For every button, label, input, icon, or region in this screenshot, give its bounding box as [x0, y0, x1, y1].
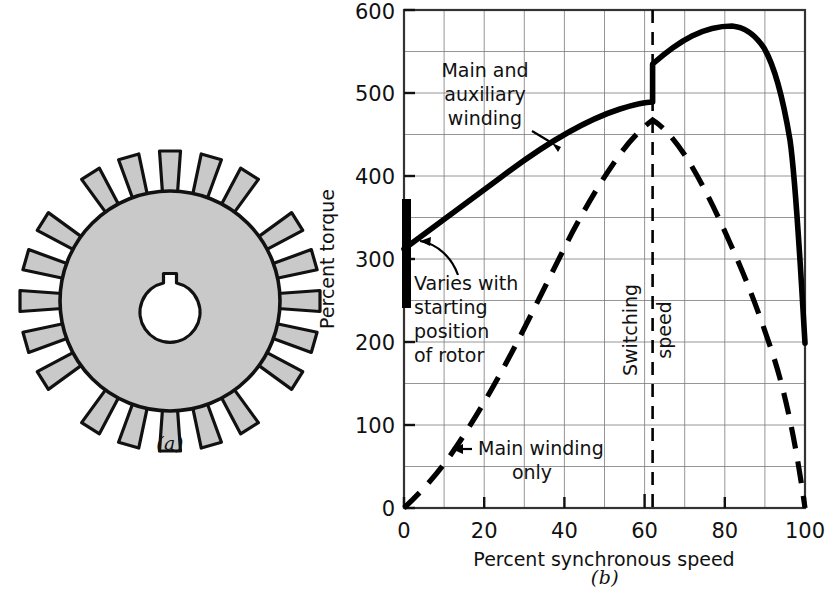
annotation-line: Main winding — [478, 437, 604, 459]
y-axis-title: Percent torque — [316, 189, 338, 329]
y-tick-label: 200 — [355, 331, 395, 355]
annotation-line: winding — [448, 107, 522, 129]
annotation-line: position — [414, 320, 489, 342]
torque-speed-curves: 0 100 200 300 400 500 600 0 20 40 60 80 … — [300, 0, 833, 605]
main-and-auxiliary-winding-leader — [532, 131, 552, 143]
x-tick-label: 20 — [471, 519, 498, 543]
annotation-line: only — [512, 461, 552, 483]
main-and-auxiliary-winding-label: Main and auxiliary winding — [441, 59, 528, 129]
caption-panel-a: (a) — [0, 432, 340, 454]
x-tick-label: 100 — [785, 519, 825, 543]
annotation-line: Varies with — [414, 272, 518, 294]
x-tick-label: 40 — [551, 519, 578, 543]
panel-b-torque-speed-chart: 0 100 200 300 400 500 600 0 20 40 60 80 … — [300, 0, 833, 605]
y-tick-label: 0 — [382, 497, 395, 521]
y-tick-label: 300 — [355, 248, 395, 272]
switching-speed-label-left: Switching — [619, 284, 641, 376]
figure-root: (a) — [0, 0, 833, 605]
annotation-line: starting — [414, 296, 488, 318]
main-and-auxiliary-winding-arrowhead — [552, 143, 561, 152]
x-tick-label: 0 — [397, 519, 410, 543]
switching-speed-label-right: speed — [653, 301, 675, 358]
caption-panel-b: (b) — [404, 566, 806, 588]
y-tick-label: 500 — [355, 82, 395, 106]
y-tick-label: 100 — [355, 414, 395, 438]
annotation-line: Main and — [441, 59, 528, 81]
annotation-line: of rotor — [414, 344, 484, 366]
y-tick-label: 400 — [355, 165, 395, 189]
main-winding-only-label: Main winding only — [478, 437, 604, 483]
annotation-line: auxiliary — [444, 83, 525, 105]
x-tick-label: 80 — [711, 519, 738, 543]
x-axis-tick-labels: 0 20 40 60 80 100 — [397, 519, 825, 543]
x-tick-label: 60 — [631, 519, 658, 543]
y-tick-label: 600 — [355, 0, 395, 24]
varies-with-starting-position-leader — [420, 241, 458, 275]
y-axis-tick-labels: 0 100 200 300 400 500 600 — [355, 0, 395, 521]
varies-with-starting-position-label: Varies with starting position of rotor — [414, 272, 518, 366]
